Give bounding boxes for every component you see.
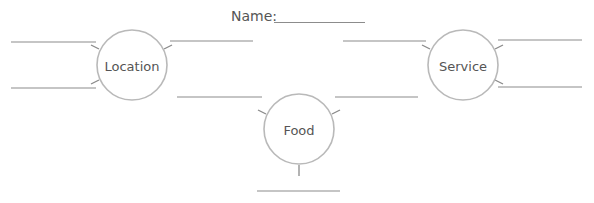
location-connector-tick bbox=[164, 45, 172, 49]
food-connector-tick bbox=[258, 110, 266, 114]
service-label: Service bbox=[439, 59, 487, 74]
web-diagram bbox=[0, 0, 594, 203]
food-node-group bbox=[177, 94, 418, 191]
food-label: Food bbox=[283, 123, 314, 138]
location-connector-tick bbox=[91, 45, 99, 49]
service-connector-tick bbox=[422, 45, 430, 49]
location-connector-tick bbox=[91, 80, 99, 84]
food-connector-tick bbox=[332, 110, 340, 114]
service-connector-tick bbox=[495, 45, 503, 49]
service-connector-tick bbox=[495, 80, 503, 84]
location-label: Location bbox=[105, 59, 160, 74]
